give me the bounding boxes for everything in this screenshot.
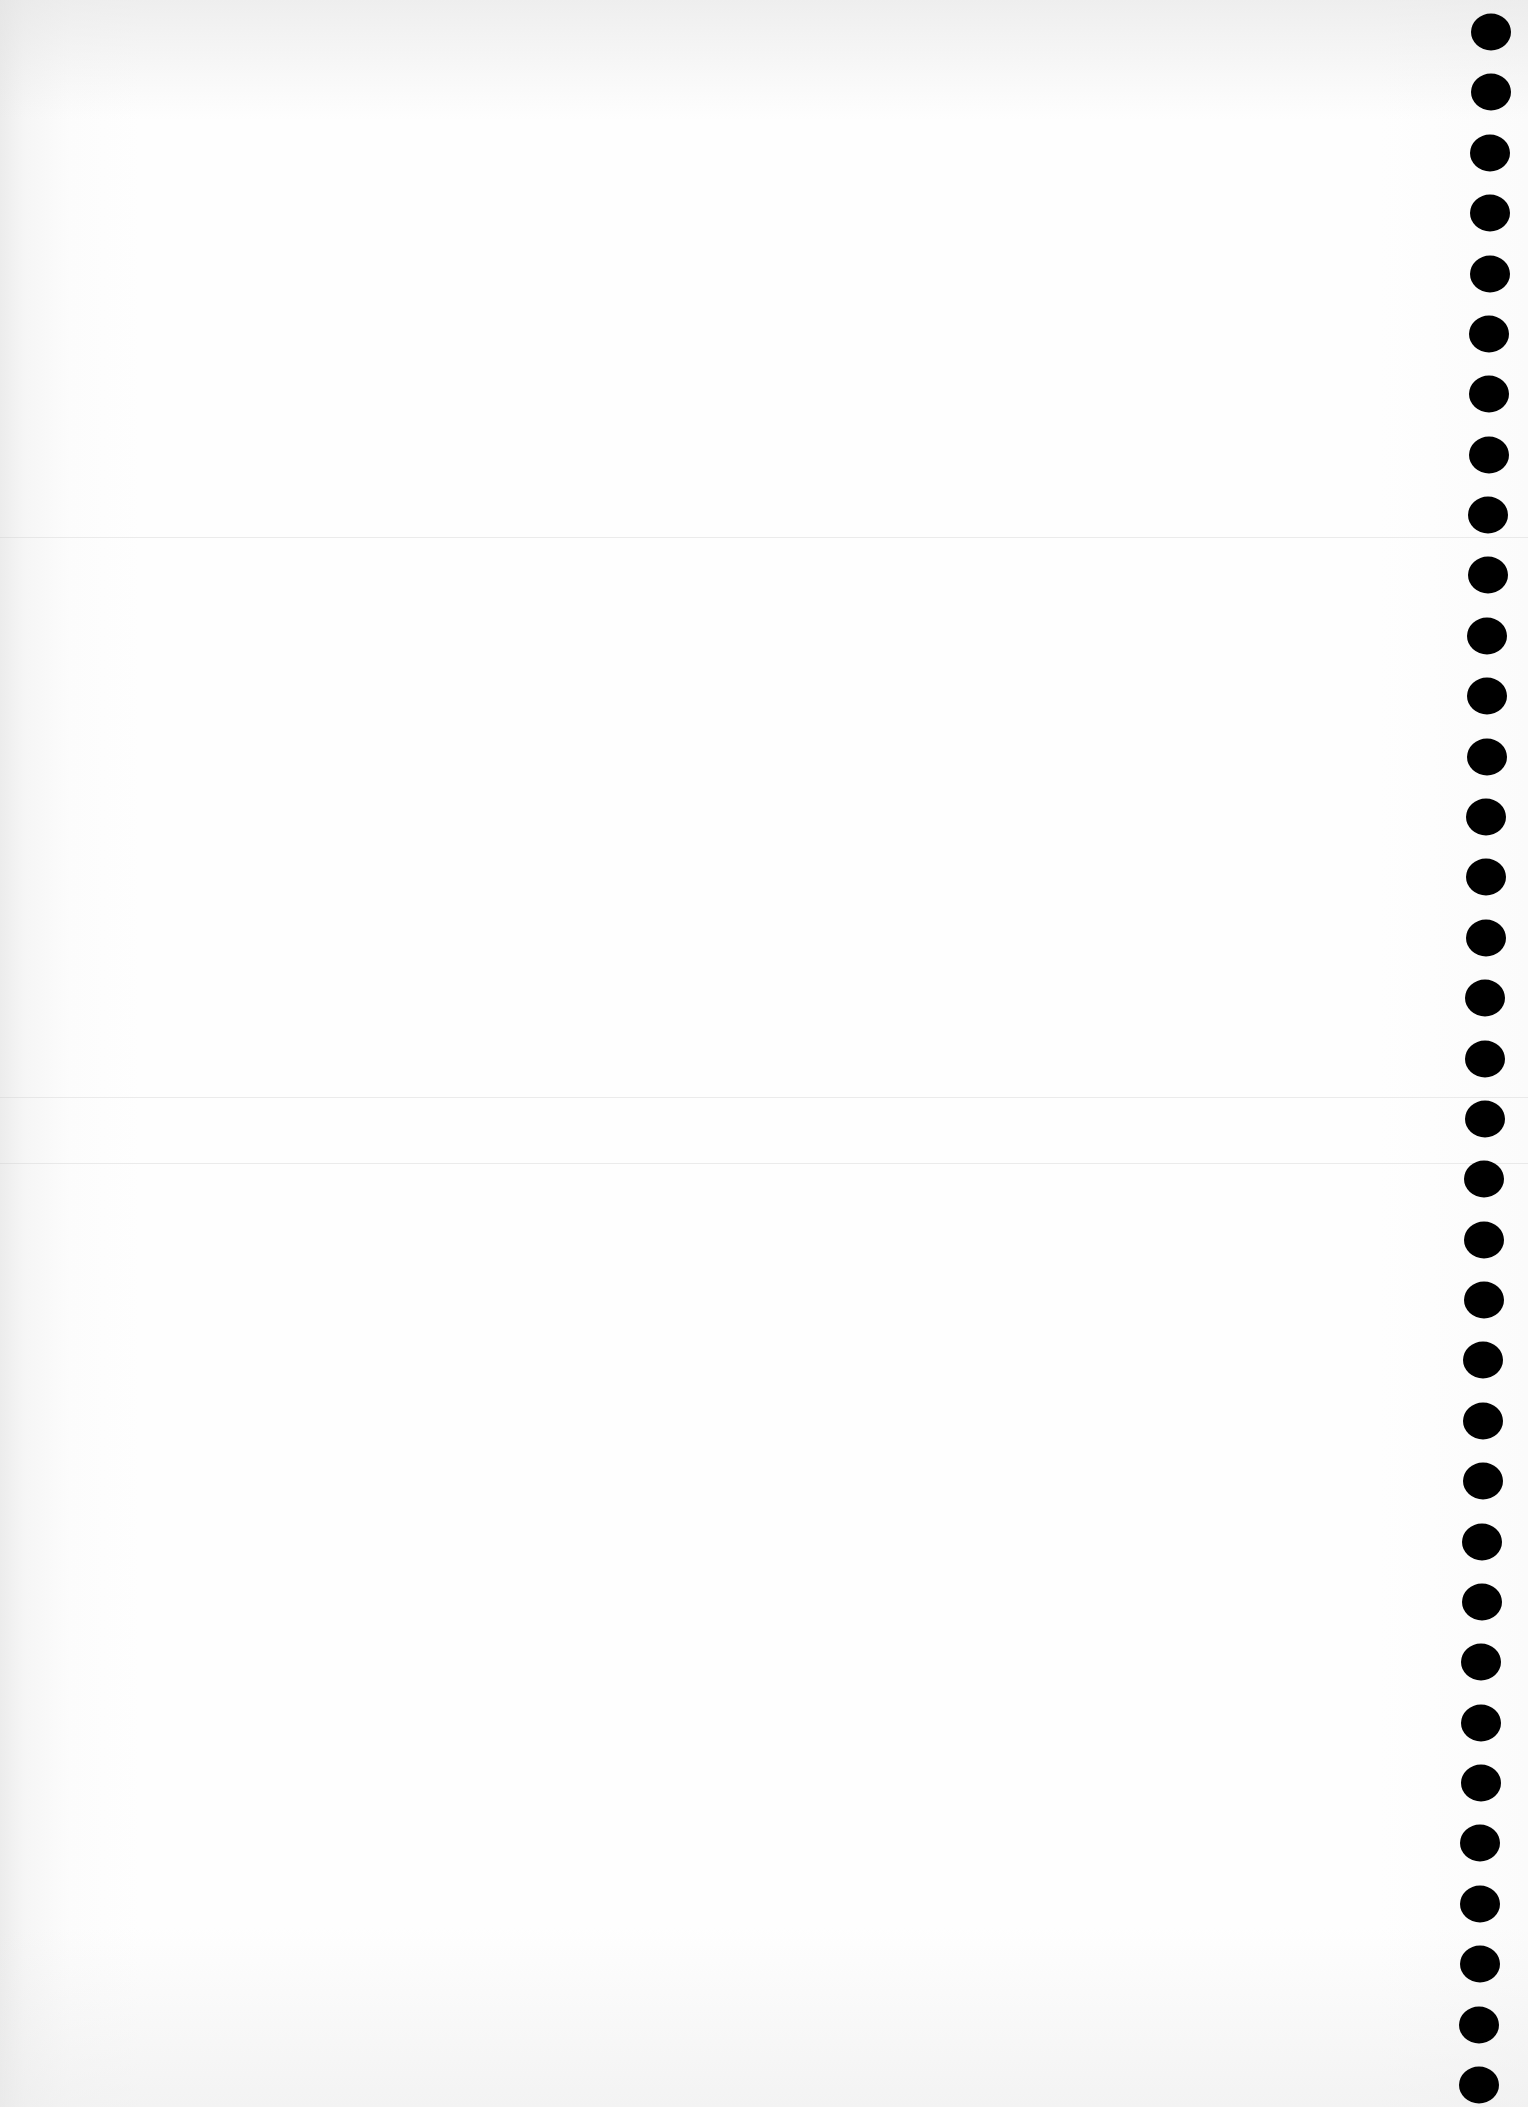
- punch-hole: [1464, 1161, 1504, 1198]
- punch-hole: [1467, 617, 1507, 654]
- punch-hole: [1467, 678, 1507, 715]
- punch-hole: [1469, 376, 1509, 413]
- punch-hole: [1470, 255, 1510, 292]
- punch-hole: [1466, 919, 1506, 956]
- punch-hole: [1461, 1704, 1501, 1741]
- punch-hole: [1460, 1885, 1500, 1922]
- punch-hole: [1463, 1402, 1503, 1439]
- punch-hole: [1461, 1765, 1501, 1802]
- punch-hole: [1460, 1825, 1500, 1862]
- punch-hole: [1468, 497, 1508, 534]
- punch-hole: [1465, 1040, 1505, 1077]
- punch-hole: [1462, 1583, 1502, 1620]
- punch-hole: [1465, 980, 1505, 1017]
- punch-hole: [1459, 2006, 1499, 2043]
- punch-hole: [1464, 1221, 1504, 1258]
- blank-paper-page: [0, 0, 1528, 2107]
- punch-hole: [1462, 1523, 1502, 1560]
- punch-hole: [1467, 738, 1507, 775]
- punch-hole: [1463, 1463, 1503, 1500]
- punch-hole: [1471, 74, 1511, 111]
- punch-hole: [1470, 195, 1510, 232]
- punch-hole: [1466, 859, 1506, 896]
- punch-hole: [1465, 1100, 1505, 1137]
- punch-hole: [1468, 557, 1508, 594]
- punch-hole: [1470, 134, 1510, 171]
- punch-hole: [1460, 1946, 1500, 1983]
- punch-hole: [1459, 2067, 1499, 2104]
- punch-hole: [1471, 14, 1511, 51]
- punch-hole: [1466, 798, 1506, 835]
- punch-hole: [1469, 436, 1509, 473]
- punch-hole: [1461, 1644, 1501, 1681]
- punch-hole: [1464, 1282, 1504, 1319]
- punch-hole: [1469, 315, 1509, 352]
- punch-hole-column: [0, 0, 1528, 2107]
- punch-hole: [1463, 1342, 1503, 1379]
